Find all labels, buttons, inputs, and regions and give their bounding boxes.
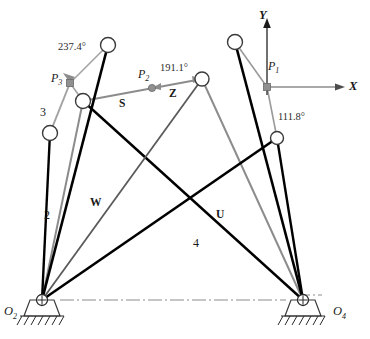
o4-ground-hatch xyxy=(278,316,325,325)
p1-lower-gray xyxy=(267,87,277,138)
vector-label-s: S xyxy=(119,98,125,110)
angle-label-191: 191.1° xyxy=(160,63,188,74)
p3-label: P3 xyxy=(51,72,62,87)
o2-label: O2 xyxy=(4,305,17,321)
joint-below-p3 xyxy=(76,94,91,109)
o4-label-letter: O xyxy=(333,304,342,318)
vector-label-w: W xyxy=(90,197,102,209)
vector-label-u: U xyxy=(216,209,224,221)
link-label-4: 4 xyxy=(193,237,199,249)
p1-label: P1 xyxy=(268,60,279,75)
link4-black xyxy=(235,42,303,300)
p2-point-marker xyxy=(148,84,155,91)
p3-label-sub: 3 xyxy=(58,78,62,87)
angle-label-111: 111.8° xyxy=(278,112,305,123)
p2-label: P2 xyxy=(138,68,149,83)
o2-label-sub: 2 xyxy=(13,312,17,321)
x-axis-arrowhead xyxy=(335,84,345,91)
y-axis-label: Y xyxy=(259,9,267,22)
link-label-2: 2 xyxy=(44,209,50,221)
p1-point-marker xyxy=(264,84,271,91)
o4-label: O4 xyxy=(333,305,346,321)
joint-link3-lower xyxy=(43,126,58,141)
link-label-3: 3 xyxy=(40,106,46,118)
diagram-canvas xyxy=(0,0,370,339)
o4-label-sub: 4 xyxy=(342,312,346,321)
p3-point-marker xyxy=(67,80,74,87)
joint-top-left xyxy=(101,38,116,53)
joint-top-right xyxy=(228,35,243,50)
x-axis-label: X xyxy=(349,80,357,93)
o2-label-letter: O xyxy=(4,304,13,318)
angle-label-237: 237.4° xyxy=(58,42,86,53)
o2-ground-hatch xyxy=(17,316,64,325)
crossing-link-o4-to-coupler xyxy=(83,101,303,300)
joint-lower-right xyxy=(271,132,284,145)
p1-label-sub: 1 xyxy=(275,66,279,75)
p2-label-sub: 2 xyxy=(145,74,149,83)
joint-right-mid xyxy=(195,72,209,86)
linkage-diagram-figure: 237.4° 191.1° 111.8° P3 P2 P1 S Z W U 2 … xyxy=(0,0,370,339)
vector-label-z: Z xyxy=(169,88,177,100)
coupler-diagonal-gray xyxy=(42,79,202,300)
